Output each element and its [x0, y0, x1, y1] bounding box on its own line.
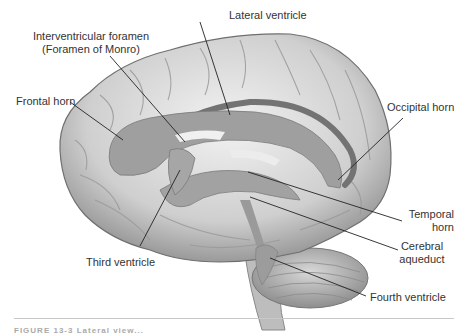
label-frontal-horn: Frontal horn [16, 95, 75, 108]
brain-ventricles-figure: Lateral ventricle Interventricular foram… [0, 0, 464, 335]
label-temporal-horn: Temporal horn [390, 208, 454, 234]
label-temporal-horn-line1: Temporal [390, 208, 454, 221]
label-lateral-ventricle: Lateral ventricle [229, 9, 307, 22]
label-interventricular-foramen: Interventricular foramen (Foramen of Mon… [18, 30, 164, 56]
label-fourth-ventricle: Fourth ventricle [370, 291, 446, 304]
label-third-ventricle: Third ventricle [86, 256, 155, 269]
label-interventricular-foramen-line1: Interventricular foramen [18, 30, 164, 43]
label-interventricular-foramen-line2: (Foramen of Monro) [18, 43, 164, 56]
figure-caption: FIGURE 13-3 Lateral view... [14, 326, 144, 335]
cerebrum-shape [60, 34, 391, 262]
label-cerebral-aqueduct: Cerebral aqueduct [392, 240, 452, 266]
label-temporal-horn-line2: horn [390, 221, 454, 234]
label-occipital-horn: Occipital horn [387, 101, 454, 114]
label-cerebral-aqueduct-line2: aqueduct [392, 253, 452, 266]
caption-divider [14, 318, 454, 319]
label-cerebral-aqueduct-line1: Cerebral [392, 240, 452, 253]
